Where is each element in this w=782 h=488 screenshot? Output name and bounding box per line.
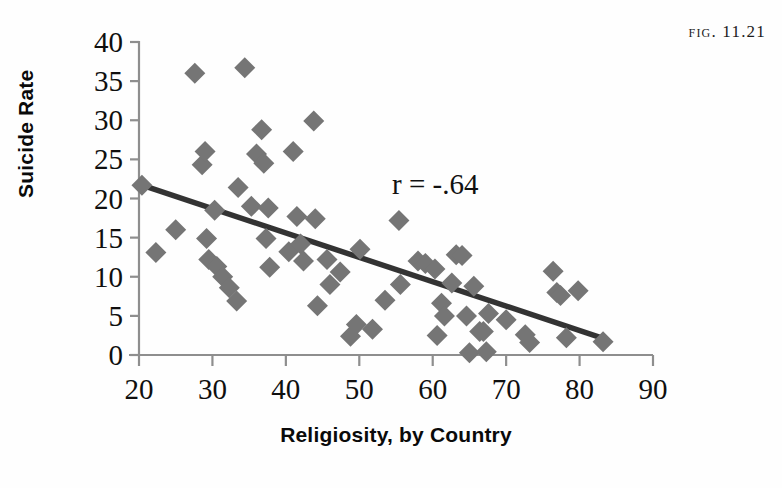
data-point (184, 63, 205, 84)
y-tick-label: 20 (94, 184, 123, 213)
y-tick-label: 5 (109, 301, 124, 330)
data-point (259, 257, 280, 278)
data-point (286, 206, 307, 227)
data-point (427, 325, 448, 346)
y-tick-label: 10 (94, 262, 123, 291)
data-point (568, 280, 589, 301)
data-point (456, 305, 477, 326)
x-tick-label: 60 (418, 375, 447, 404)
data-point (251, 119, 272, 140)
data-point (228, 177, 249, 198)
data-point (390, 274, 411, 295)
y-tick-label: 15 (94, 223, 123, 252)
data-point (303, 111, 324, 132)
data-point (388, 210, 409, 231)
x-tick-label: 30 (198, 375, 227, 404)
x-tick-label: 20 (125, 375, 154, 404)
x-tick-label: 50 (345, 375, 374, 404)
data-point (196, 228, 217, 249)
scatter-chart: 05101520253035402030405060708090 Suicide… (0, 0, 782, 488)
data-point (476, 341, 497, 362)
data-point (473, 321, 494, 342)
x-tick-label: 90 (639, 375, 668, 404)
data-point (307, 295, 328, 316)
y-tick-label: 30 (94, 106, 123, 135)
data-point (165, 219, 186, 240)
y-tick-label: 35 (94, 67, 123, 96)
x-tick-label: 40 (271, 375, 300, 404)
data-point (374, 290, 395, 311)
x-axis-title: Religiosity, by Country (139, 423, 653, 447)
data-point (543, 261, 564, 282)
y-tick-label: 25 (94, 145, 123, 174)
data-point (204, 200, 225, 221)
axis-ticks (130, 42, 653, 366)
data-point (145, 242, 166, 263)
y-tick-label: 40 (94, 28, 123, 57)
data-point (478, 303, 499, 324)
data-point (316, 249, 337, 270)
data-point (305, 208, 326, 229)
data-point (258, 197, 279, 218)
y-axis-title: Suicide Rate (14, 70, 38, 198)
data-point (496, 309, 517, 330)
correlation-annotation: r = -.64 (392, 168, 478, 201)
x-tick-label: 70 (492, 375, 521, 404)
data-point (241, 196, 262, 217)
axis-lines (129, 41, 653, 355)
data-point (362, 319, 383, 340)
data-point (131, 175, 152, 196)
data-point (283, 141, 304, 162)
x-tick-label: 80 (565, 375, 594, 404)
data-point (234, 57, 255, 78)
y-tick-label: 0 (109, 341, 124, 370)
